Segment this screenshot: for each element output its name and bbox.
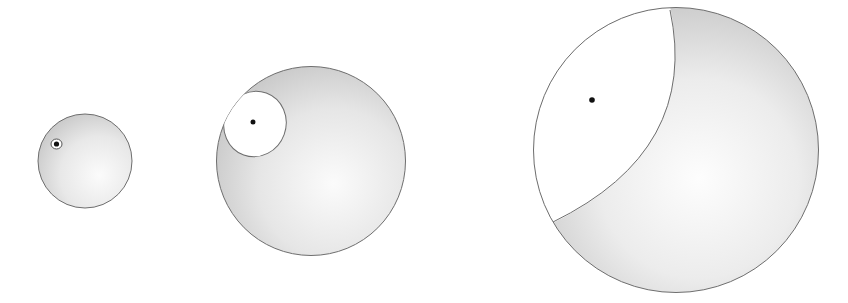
sphere-large: [500, 0, 819, 293]
sphere-small: [38, 114, 132, 208]
sphere-medium-dot: [251, 120, 256, 125]
sphere-small-dot: [54, 141, 59, 146]
sphere-large-dot: [589, 97, 595, 103]
sphere-small-body: [38, 114, 132, 208]
sphere-medium: [215, 67, 406, 256]
spheres-diagram: [0, 0, 848, 303]
